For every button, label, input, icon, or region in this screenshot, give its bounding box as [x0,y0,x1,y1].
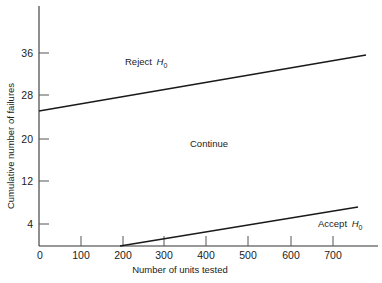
rejection-boundary-line [39,55,366,111]
reject-region-label: Reject H0 [125,56,167,69]
svg-text:300: 300 [155,249,173,261]
x-tick-labels: 0 100 200 300 400 500 600 700 [37,249,342,261]
svg-text:12: 12 [21,175,33,187]
svg-text:500: 500 [239,249,257,261]
accept-region-label: Accept H0 [318,218,363,231]
x-axis-title: Number of units tested [132,264,228,275]
sequential-test-chart: 4 12 20 28 36 0 100 200 300 400 500 600 … [0,0,382,283]
y-ticks [39,53,49,224]
svg-text:4: 4 [27,218,33,230]
svg-text:400: 400 [197,249,215,261]
svg-text:0: 0 [37,249,43,261]
y-tick-labels: 4 12 20 28 36 [21,47,33,230]
svg-text:36: 36 [21,47,33,59]
svg-text:200: 200 [114,249,132,261]
svg-text:700: 700 [324,249,342,261]
svg-text:100: 100 [72,249,90,261]
continue-region-label: Continue [190,138,228,149]
svg-text:20: 20 [21,133,33,145]
svg-text:600: 600 [282,249,300,261]
y-axis-title: Cumulative number of failures [5,83,16,209]
svg-text:28: 28 [21,89,33,101]
x-ticks [81,236,333,246]
